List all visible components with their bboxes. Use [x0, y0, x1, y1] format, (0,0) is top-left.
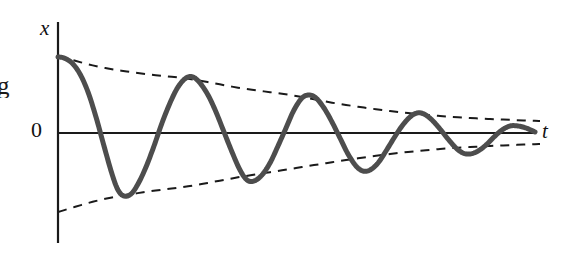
origin-label: 0 — [31, 119, 42, 141]
margin-text-fragment: g — [0, 73, 10, 98]
x-axis-label: t — [542, 121, 548, 142]
y-axis-label: x — [40, 18, 49, 39]
plot-canvas — [0, 0, 565, 258]
upper-envelope-curve — [58, 56, 540, 121]
damped-oscillation-curve — [58, 57, 535, 196]
damped-oscillation-figure: x t 0 g — [0, 0, 565, 258]
